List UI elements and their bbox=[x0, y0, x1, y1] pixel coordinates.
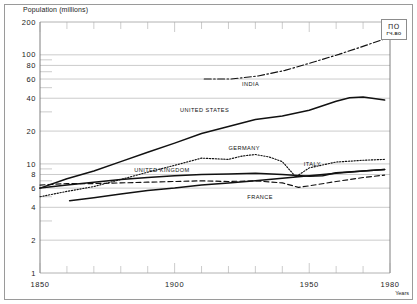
y-tick-label: 80 bbox=[26, 61, 36, 70]
y-tick-label: 1 bbox=[31, 269, 36, 278]
stamp-line-1: ПО bbox=[388, 23, 400, 31]
y-tick-label: 4 bbox=[31, 203, 36, 212]
x-tick-label: 1900 bbox=[165, 280, 184, 289]
y-tick-label: 6 bbox=[31, 184, 36, 193]
y-tick-label: 60 bbox=[26, 75, 36, 84]
archive-stamp: ПО ГЧ-ВО bbox=[381, 19, 407, 40]
series-label-france: FRANCE bbox=[247, 194, 273, 200]
plot-area: 2001008060402010864211850190019501980IND… bbox=[0, 0, 417, 304]
y-tick-label: 40 bbox=[26, 94, 36, 103]
series-label-italy: ITALY bbox=[304, 161, 321, 167]
y-tick-label: 8 bbox=[31, 170, 36, 179]
x-tick-label: 1850 bbox=[30, 280, 49, 289]
y-tick-label: 10 bbox=[26, 160, 36, 169]
y-tick-label: 20 bbox=[26, 127, 36, 136]
y-tick-label: 200 bbox=[22, 18, 36, 27]
y-tick-label: 100 bbox=[22, 50, 36, 59]
x-tick-label: 1980 bbox=[380, 280, 399, 289]
x-tick-label: 1950 bbox=[300, 280, 319, 289]
series-label-germany: GERMANY bbox=[228, 145, 259, 151]
series-label-united-states: UNITED STATES bbox=[180, 107, 229, 113]
stamp-line-2: ГЧ-ВО bbox=[386, 31, 401, 36]
series-line-france bbox=[40, 175, 385, 187]
series-line-germany bbox=[40, 155, 385, 197]
series-label-india: INDIA bbox=[242, 81, 259, 87]
series-line-india bbox=[204, 39, 384, 79]
y-tick-label: 2 bbox=[31, 236, 36, 245]
series-label-united-kingdom: UNITED KINGDOM bbox=[134, 167, 189, 173]
chart-figure: Population (millions) Years 200100806040… bbox=[0, 0, 417, 304]
